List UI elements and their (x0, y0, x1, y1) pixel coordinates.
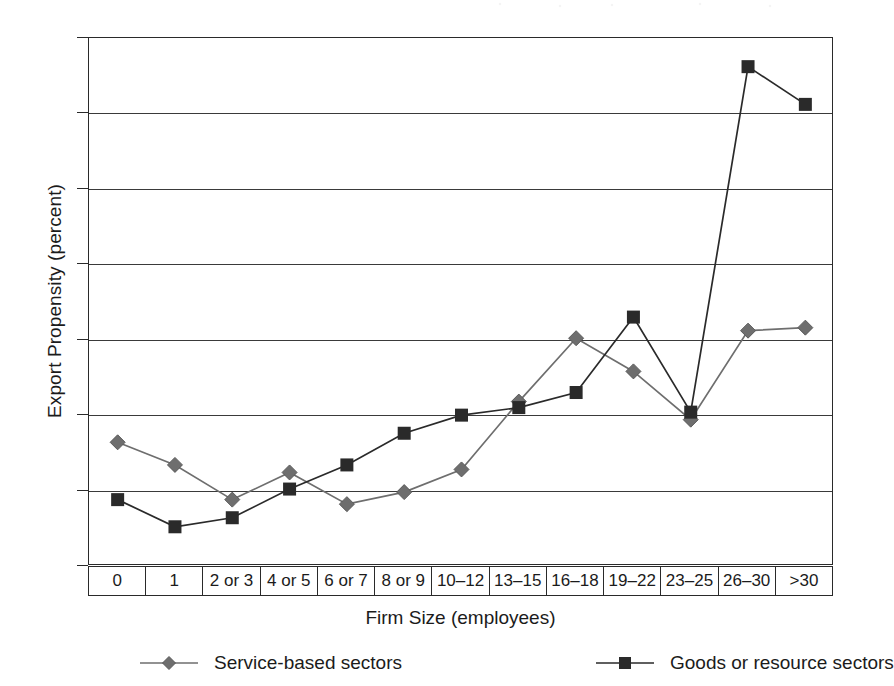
data-point-diamond-icon (741, 323, 756, 338)
x-axis-category-cell: 19–22 (604, 567, 661, 595)
legend-swatch-diamond-icon (138, 654, 200, 672)
x-axis-category-row: 012 or 34 or 56 or 78 or 910–1213–1516–1… (88, 566, 833, 596)
data-point-square-icon (742, 60, 755, 73)
y-axis-tick-mark (77, 339, 88, 340)
y-axis-tick-mark (77, 37, 88, 38)
data-point-diamond-icon (798, 320, 813, 335)
series-line (118, 67, 806, 527)
x-axis-category-cell: 0 (89, 567, 146, 595)
chart-legend: Service-based sectors Goods or resource … (88, 648, 833, 678)
data-point-diamond-icon (397, 485, 412, 500)
x-axis-category-cell: 26–30 (719, 567, 776, 595)
y-axis-tick-mark (77, 565, 88, 566)
data-point-diamond-icon (282, 465, 297, 480)
data-point-square-icon (455, 409, 468, 422)
y-axis-tick-mark (77, 188, 88, 189)
data-point-square-icon (684, 406, 697, 419)
legend-entry-service-based-sectors: Service-based sectors (138, 652, 402, 674)
data-point-diamond-icon (110, 435, 125, 450)
y-axis-tick-mark (77, 490, 88, 491)
data-point-diamond-icon (225, 492, 240, 507)
legend-label: Service-based sectors (214, 652, 402, 674)
x-axis-category-cell: 6 or 7 (318, 567, 375, 595)
data-point-square-icon (627, 311, 640, 324)
x-axis-category-cell: 2 or 3 (203, 567, 260, 595)
x-axis-category-cell: 13–15 (490, 567, 547, 595)
data-point-square-icon (226, 511, 239, 524)
scan-speckle (0, 0, 839, 12)
data-point-square-icon (168, 520, 181, 533)
series-layer (89, 38, 834, 566)
y-axis-tick-mark (77, 263, 88, 264)
y-axis-title: Export Propensity (percent) (44, 136, 66, 466)
data-point-diamond-icon (339, 497, 354, 512)
data-point-square-icon (283, 483, 296, 496)
data-point-square-icon (340, 458, 353, 471)
data-point-square-icon (570, 386, 583, 399)
x-axis-category-cell: 1 (146, 567, 203, 595)
x-axis-category-cell: 16–18 (547, 567, 604, 595)
data-point-square-icon (398, 427, 411, 440)
plot-area (88, 37, 833, 565)
legend-label: Goods or resource sectors (670, 652, 894, 674)
legend-swatch-square-icon (594, 654, 656, 672)
x-axis-category-cell: >30 (776, 567, 832, 595)
data-point-square-icon (799, 98, 812, 111)
y-axis-tick-mark (77, 414, 88, 415)
y-axis-tick-mark (77, 112, 88, 113)
x-axis-category-cell: 10–12 (432, 567, 489, 595)
data-point-diamond-icon (167, 457, 182, 472)
x-axis-category-cell: 8 or 9 (375, 567, 432, 595)
data-point-square-icon (111, 493, 124, 506)
x-axis-title: Firm Size (employees) (88, 607, 833, 629)
legend-entry-goods-or-resource-sectors: Goods or resource sectors (594, 652, 894, 674)
x-axis-category-cell: 23–25 (661, 567, 718, 595)
data-point-square-icon (512, 401, 525, 414)
x-axis-category-cell: 4 or 5 (261, 567, 318, 595)
